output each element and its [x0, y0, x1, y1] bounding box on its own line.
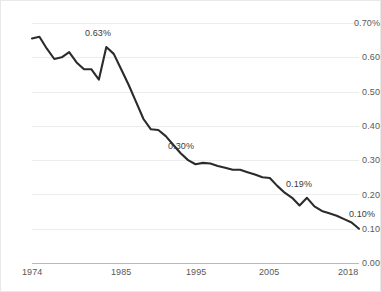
- x-tick-label-2: 1995: [186, 267, 206, 277]
- plot-area: [32, 23, 359, 263]
- x-tick-label-1: 1985: [111, 267, 131, 277]
- y-tick-label-1: 0.60: [356, 52, 380, 62]
- y-tick-label-5: 0.20: [356, 190, 380, 200]
- x-axis-line: [32, 263, 359, 264]
- annotation-2011: 0.19%: [286, 179, 312, 189]
- x-tick-label-4: 2018: [338, 267, 358, 277]
- annotation-peak-1984: 0.63%: [85, 28, 111, 38]
- annotation-1995: 0.30%: [168, 141, 194, 151]
- chart-container: 0.70% 0.60 0.50 0.40 0.30 0.20 0.10 0.00…: [0, 0, 381, 292]
- y-tick-label-7: 0.00: [356, 258, 380, 268]
- y-tick-label-4: 0.30: [356, 155, 380, 165]
- x-tick-label-3: 2005: [259, 267, 279, 277]
- y-tick-label-3: 0.40: [356, 121, 380, 131]
- series-polyline: [32, 37, 359, 229]
- y-tick-label-6: 0.10: [356, 224, 380, 234]
- x-tick-label-0: 1974: [22, 267, 42, 277]
- annotation-2018: 0.10%: [349, 209, 375, 219]
- y-tick-label-2: 0.50: [356, 87, 380, 97]
- y-tick-label-0: 0.70%: [352, 18, 380, 28]
- data-series-line: [32, 23, 359, 263]
